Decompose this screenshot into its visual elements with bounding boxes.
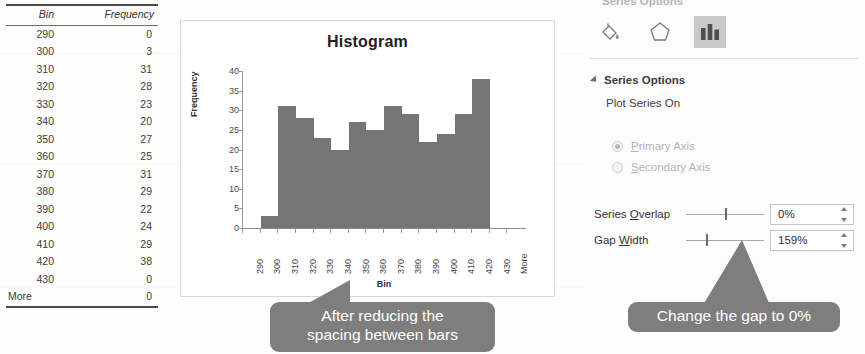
radio-button-icon[interactable] (612, 141, 623, 152)
callout-left: After reducing the spacing between bars (270, 302, 495, 352)
bar[interactable] (261, 216, 279, 228)
table-row: 31031 (6, 61, 158, 79)
spinner-down-icon[interactable] (841, 218, 847, 222)
radio-label-rest: rimary Axis (639, 140, 695, 152)
x-tick-mark (242, 229, 243, 233)
cell-frequency: 25 (70, 148, 158, 166)
x-tick-label: 430 (502, 259, 512, 274)
plot-area (243, 71, 525, 228)
cell-bin: 430 (6, 271, 70, 289)
series-overlap-slider[interactable] (686, 205, 764, 223)
cell-bin: 400 (6, 218, 70, 236)
spinner-up-icon[interactable] (841, 233, 847, 237)
x-tick-label: 350 (361, 259, 371, 274)
bar[interactable] (437, 134, 455, 228)
y-tick-label: 15 (215, 164, 239, 174)
bar[interactable] (366, 130, 384, 228)
series-options-chart-icon[interactable] (694, 16, 726, 48)
table-row: 37031 (6, 166, 158, 184)
cell-frequency: 38 (70, 253, 158, 271)
chart-title: Histogram (181, 33, 554, 51)
cell-bin: 390 (6, 201, 70, 219)
x-tick-mark (436, 229, 437, 233)
gap-width-value: 159% (771, 234, 807, 246)
bar[interactable] (331, 150, 349, 229)
bar-series (243, 71, 525, 228)
mnemonic-letter: P (631, 140, 639, 152)
radio-primary-axis[interactable]: Primary Axis (612, 140, 695, 152)
cell-bin: 370 (6, 166, 70, 184)
spinner-arrows[interactable] (840, 207, 848, 222)
cell-bin: 320 (6, 78, 70, 96)
table-row: 38029 (6, 183, 158, 201)
y-axis-tick-labels: 0510152025303540 (211, 71, 239, 228)
y-tick-label: 30 (215, 105, 239, 115)
slider-handle[interactable] (725, 208, 727, 220)
bar[interactable] (314, 138, 332, 228)
series-overlap-row: Series Overlap 0% (594, 202, 862, 226)
x-tick-label: 420 (484, 259, 494, 274)
cell-frequency: 0 (70, 271, 158, 289)
cell-frequency: 29 (70, 236, 158, 254)
table-row: More0 (6, 288, 158, 307)
bar[interactable] (278, 106, 296, 228)
collapse-triangle-icon[interactable] (590, 75, 599, 84)
y-tick-label: 35 (215, 86, 239, 96)
spinner-up-icon[interactable] (841, 207, 847, 211)
y-tick-label: 20 (215, 145, 239, 155)
frequency-table: Bin Frequency 29003003310313202833023340… (6, 4, 158, 308)
cell-bin: 420 (6, 253, 70, 271)
gap-width-label: Gap Width (594, 234, 686, 246)
bar[interactable] (296, 118, 314, 228)
series-overlap-label: Series Overlap (594, 208, 686, 220)
bar[interactable] (455, 114, 473, 228)
x-tick-label: 360 (378, 259, 388, 274)
spinner-down-icon[interactable] (841, 244, 847, 248)
label-part: Series (594, 208, 630, 220)
radio-button-icon[interactable] (612, 162, 623, 173)
x-tick-label: 370 (396, 259, 406, 274)
cell-frequency: 31 (70, 61, 158, 79)
x-tick-mark (454, 229, 455, 233)
y-tick-label: 40 (215, 66, 239, 76)
series-options-section-header[interactable]: Series Options (592, 74, 685, 86)
x-axis-tick-labels: 2903003103203303403503603703803904004104… (242, 234, 526, 276)
x-tick-mark (295, 229, 296, 233)
x-tick-label: 330 (325, 259, 335, 274)
radio-secondary-axis-label: Secondary Axis (631, 161, 710, 173)
table-row: 41029 (6, 236, 158, 254)
bar[interactable] (384, 106, 402, 228)
cell-frequency: 29 (70, 183, 158, 201)
y-tick-label: 5 (215, 203, 239, 213)
fill-bucket-icon[interactable] (594, 16, 626, 48)
x-tick-mark (365, 229, 366, 233)
gap-width-spinbox[interactable]: 159% (770, 230, 854, 251)
column-header-frequency: Frequency (70, 5, 158, 25)
table-row: 3003 (6, 43, 158, 61)
x-tick-label: More (519, 253, 529, 274)
x-tick-mark (277, 229, 278, 233)
cell-frequency: 0 (70, 25, 158, 43)
cell-frequency: 24 (70, 218, 158, 236)
x-tick-mark (506, 229, 507, 233)
table-header-row: Bin Frequency (6, 5, 158, 25)
cell-frequency: 27 (70, 131, 158, 149)
bar[interactable] (402, 114, 420, 228)
chart-panel[interactable]: Histogram Frequency 0510152025303540 290… (180, 20, 555, 297)
bar[interactable] (349, 122, 367, 228)
x-tick-label: 310 (290, 259, 300, 274)
y-tick-label: 25 (215, 125, 239, 135)
callout-right-tail (700, 240, 772, 310)
bar[interactable] (472, 79, 490, 228)
bar[interactable] (419, 142, 437, 228)
label-part: Gap (594, 234, 619, 246)
x-tick-mark (383, 229, 384, 233)
series-overlap-spinbox[interactable]: 0% (770, 204, 854, 225)
radio-secondary-axis[interactable]: Secondary Axis (612, 161, 710, 173)
x-tick-label: 380 (413, 259, 423, 274)
spinner-arrows[interactable] (840, 233, 848, 248)
x-tick-mark (418, 229, 419, 233)
plot-series-on-label: Plot Series On (606, 97, 680, 109)
effects-pentagon-icon[interactable] (644, 16, 676, 48)
x-tick-mark (348, 229, 349, 233)
